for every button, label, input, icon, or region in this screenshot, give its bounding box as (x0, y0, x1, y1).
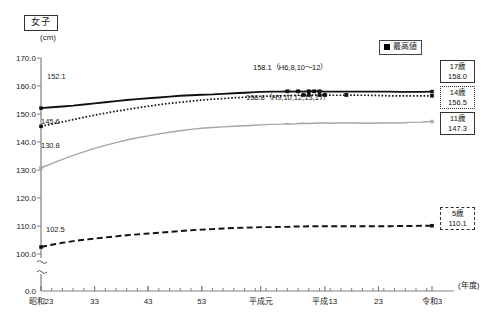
annotation-second-peak: 156.8（H9,10,12,13,17） (246, 93, 330, 102)
x-axis-unit-label: (年度) (458, 281, 479, 290)
y-tick-label: 110.0 (2, 222, 36, 231)
x-tick-label: 平成13 (297, 297, 353, 306)
start-label-11: 130.8 (41, 141, 60, 150)
y-tick-label: 150.0 (2, 110, 36, 119)
x-tick-label: 43 (120, 297, 176, 306)
end-label-17: 17歳 158.0 (440, 60, 475, 83)
series-line-11歳 (41, 122, 432, 168)
end-label-5: 5歳 110.1 (440, 207, 475, 230)
peak-markers (39, 89, 434, 248)
end-label-14-age: 14歳 (441, 88, 474, 98)
y-tick-label: 130.0 (2, 166, 36, 175)
plot-area (0, 0, 486, 325)
end-label-14-value: 156.5 (441, 98, 474, 108)
x-tick-label: 昭和23 (13, 297, 69, 306)
y-tick-label: 160.0 (2, 82, 36, 91)
end-label-5-value: 110.1 (441, 219, 474, 229)
start-label-17: 152.1 (47, 72, 66, 81)
end-label-5-age: 5歳 (441, 209, 474, 219)
end-label-17-value: 158.0 (441, 72, 474, 82)
y-tick-label: 0.0 (2, 287, 36, 296)
x-tick-label: 33 (67, 297, 123, 306)
end-label-11-age: 11歳 (441, 114, 474, 124)
end-label-14: 14歳 156.5 (440, 86, 475, 109)
y-tick-label: 100.0 (2, 250, 36, 259)
y-tick-label: 170.0 (2, 54, 36, 63)
end-label-17-age: 17歳 (441, 62, 474, 72)
start-label-14: 145.6 (41, 117, 60, 126)
x-tick-label: 令和3 (404, 297, 460, 306)
series-line-14歳 (41, 95, 432, 126)
y-tick-label: 120.0 (2, 194, 36, 203)
end-label-11-value: 147.3 (441, 124, 474, 134)
series-line-17歳 (41, 91, 432, 108)
series-line-5歳 (41, 226, 432, 247)
x-tick-label: 平成元 (233, 297, 289, 306)
end-label-11: 11歳 147.3 (440, 112, 475, 135)
start-label-5: 102.5 (46, 225, 65, 234)
annotation-top-peak: 158.1（H6,8,10〜12） (253, 63, 327, 72)
series-lines (41, 91, 432, 247)
chart-figure: 女子 (cm) 最高値 170.0160.0150.0140.0130.0120… (0, 0, 486, 325)
y-tick-label: 140.0 (2, 138, 36, 147)
x-tick-label: 23 (350, 297, 406, 306)
x-tick-label: 53 (174, 297, 230, 306)
